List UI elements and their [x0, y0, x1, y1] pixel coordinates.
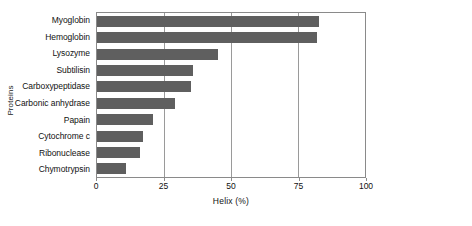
bar — [97, 49, 218, 60]
bar — [97, 65, 193, 76]
bar-row — [97, 79, 365, 95]
bar — [97, 131, 143, 142]
bar — [97, 114, 153, 125]
bar-row — [97, 13, 365, 29]
bar-row — [97, 29, 365, 45]
bar-row — [97, 95, 365, 111]
x-tick-label: 25 — [159, 181, 168, 191]
bar — [97, 163, 126, 174]
x-tick-label: 100 — [359, 181, 373, 191]
x-axis-title: Helix (%) — [96, 196, 366, 206]
bar-row — [97, 144, 365, 160]
category-label: Cytochrome c — [10, 128, 92, 145]
plot-area — [96, 12, 366, 178]
bar — [97, 32, 317, 43]
category-label: Lysozyme — [10, 45, 92, 62]
category-label: Carboxypeptidase — [10, 78, 92, 95]
bar — [97, 81, 191, 92]
category-axis-labels: MyoglobinHemoglobinLysozymeSubtilisinCar… — [10, 12, 92, 178]
bar — [97, 98, 175, 109]
x-axis-ticks: 0255075100 — [96, 178, 366, 194]
bar-row — [97, 161, 365, 177]
bar-chart: Proteins MyoglobinHemoglobinLysozymeSubt… — [0, 0, 472, 226]
bar-row — [97, 46, 365, 62]
bar — [97, 147, 140, 158]
category-label: Chymotrypsin — [10, 161, 92, 178]
bar-row — [97, 111, 365, 127]
x-tick-label: 75 — [294, 181, 303, 191]
category-label: Carbonic anhydrase — [10, 95, 92, 112]
bar-row — [97, 128, 365, 144]
bar — [97, 16, 319, 27]
x-tick-label: 0 — [94, 181, 99, 191]
bar-series — [97, 13, 365, 177]
bar-row — [97, 62, 365, 78]
category-label: Ribonuclease — [10, 145, 92, 162]
category-label: Papain — [10, 112, 92, 129]
x-tick-label: 50 — [226, 181, 235, 191]
category-label: Myoglobin — [10, 12, 92, 29]
category-label: Subtilisin — [10, 62, 92, 79]
category-label: Hemoglobin — [10, 29, 92, 46]
